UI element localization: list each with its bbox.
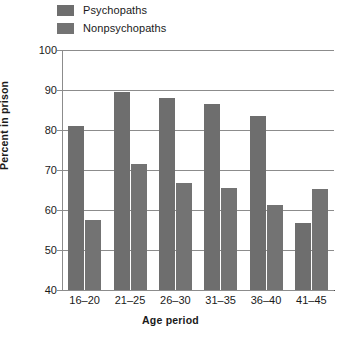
bars-layer: [62, 50, 334, 290]
bar: [68, 126, 84, 290]
bar: [159, 98, 175, 290]
bar: [85, 220, 101, 290]
legend-item-psychopaths: Psychopaths: [57, 3, 257, 17]
legend-label-psychopaths: Psychopaths: [83, 5, 147, 16]
x-tick-label: 31–35: [205, 295, 236, 306]
bar: [176, 183, 192, 290]
x-axis-label: Age period: [0, 314, 341, 326]
legend-swatch-psychopaths: [57, 5, 74, 16]
bar: [250, 116, 266, 290]
y-tick-label: 50: [45, 245, 57, 256]
x-tick-label: 41–45: [296, 295, 327, 306]
y-tick-label: 60: [45, 205, 57, 216]
bar: [131, 164, 147, 290]
legend-swatch-nonpsychopaths: [57, 23, 74, 34]
bar: [295, 223, 311, 290]
bar: [221, 188, 237, 290]
y-tick-label: 40: [45, 285, 57, 296]
y-tick-label: 100: [39, 45, 57, 56]
bar: [267, 205, 283, 290]
y-axis-label: Percent in prison: [0, 81, 10, 170]
legend-item-nonpsychopaths: Nonpsychopaths: [57, 21, 257, 35]
x-tick-label: 36–40: [251, 295, 282, 306]
y-tick-label: 80: [45, 125, 57, 136]
y-tick-mark: [57, 290, 62, 291]
bar: [114, 92, 130, 290]
y-tick-label: 90: [45, 85, 57, 96]
gridline: [62, 290, 334, 291]
y-tick-label: 70: [45, 165, 57, 176]
bar: [312, 189, 328, 290]
legend-label-nonpsychopaths: Nonpsychopaths: [83, 23, 166, 34]
grouped-bar-chart: Psychopaths Nonpsychopaths Percent in pr…: [0, 0, 341, 338]
x-tick-label: 21–25: [115, 295, 146, 306]
bar: [204, 104, 220, 290]
x-tick-label: 16–20: [69, 295, 100, 306]
chart-legend: Psychopaths Nonpsychopaths: [57, 3, 257, 39]
x-tick-label: 26–30: [160, 295, 191, 306]
